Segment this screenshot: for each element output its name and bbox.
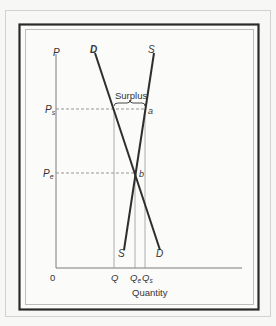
demand-bottom-label: D	[156, 248, 163, 259]
supply-top-label: S	[148, 44, 155, 55]
point-b-label: b	[139, 169, 144, 179]
point-a-label: a	[148, 106, 153, 116]
x-axis-label: Quantity	[132, 287, 168, 298]
y-axis-label: P	[53, 47, 60, 58]
supply-bottom-label: S	[118, 248, 125, 259]
demand-top-label: D	[90, 44, 97, 55]
thick-frame	[20, 25, 259, 310]
diagram-canvas: P D S Surplus Ps a Pe b S D 0 Q Qe Qs Qu…	[0, 0, 276, 326]
q-label: Q	[111, 272, 119, 283]
surplus-label: Surplus	[115, 90, 147, 101]
origin-label: 0	[50, 272, 55, 283]
